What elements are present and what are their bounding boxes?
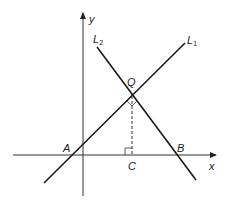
- label-l1: L1: [187, 34, 197, 47]
- geometry-diagram: y x L2 L1 Q A B C: [0, 0, 228, 203]
- right-angle-mark-c: [125, 148, 132, 155]
- y-axis-label: y: [88, 13, 96, 25]
- line-l1: [44, 43, 185, 183]
- label-point-c: C: [128, 160, 136, 172]
- label-l2: L2: [93, 33, 103, 46]
- x-axis-label: x: [208, 160, 215, 172]
- label-point-a: A: [62, 142, 70, 154]
- label-point-q: Q: [127, 76, 136, 88]
- label-point-b: B: [177, 142, 184, 154]
- line-l2: [97, 47, 196, 180]
